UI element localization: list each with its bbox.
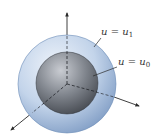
- label-subscript: 1: [129, 31, 133, 39]
- label-eq: =: [124, 56, 139, 67]
- x-axis-arrow: [11, 113, 32, 130]
- inner-sphere-label: u = u0: [118, 57, 150, 69]
- concentric-spheres-diagram: u = u1 u = u0: [0, 0, 154, 136]
- label-subscript: 0: [146, 61, 150, 69]
- y-axis-arrow: [114, 97, 139, 106]
- label-eq: =: [107, 26, 122, 37]
- outer-sphere-label: u = u1: [101, 27, 133, 39]
